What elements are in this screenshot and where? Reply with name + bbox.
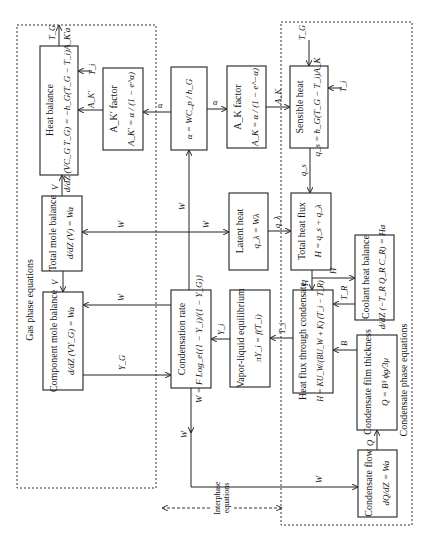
component-mole-balance-title: Component mole balance [48, 289, 59, 392]
h-coolant-label: H [328, 267, 338, 275]
w-vertical-label: W [177, 202, 187, 210]
ak-prime-factor-title: A_K′ factor [108, 85, 119, 133]
ti-in-sensible-label: T_i [338, 80, 348, 92]
ti-in-heat-balance-label: T_i [87, 63, 97, 75]
vapor-liquid-equilibrium-box: Vapor-liquid equilibrium πY_i = f(T_i) [230, 288, 270, 388]
sensible-heat-title: Sensible heat [294, 80, 305, 133]
coolant-heat-balance-title: Coolant heat balance [360, 235, 371, 319]
total-heat-flux-title: Total heat flux [296, 202, 307, 260]
w-condensate-flow-label: W [314, 475, 324, 483]
akp-label: A_K′ [86, 91, 96, 109]
tg-out-label: T_G [47, 25, 57, 40]
component-mole-balance-box: Component mole balance d/dZ (VY_G) = Wa [43, 289, 83, 392]
w-total-mole-label: W [116, 220, 126, 228]
yi-label: Y_i [216, 323, 226, 335]
condensation-rate-title: Condensation rate [176, 302, 187, 375]
heat-balance-equation: d/dZ (VC_G T_G) = −h_G(T_G − T_i)A_K′a [62, 27, 72, 192]
sensible-heat-equation: q_s = h_G(T_G − T_i)A_K [312, 56, 322, 156]
w-component-label: W [116, 293, 126, 301]
tr-label: T_R [339, 285, 349, 300]
ak-prime-factor-box: A_K′ factor A_K′ = α / (1 − e^α) [103, 68, 143, 150]
tg-in-sensible-label: T_G [297, 25, 307, 40]
total-mole-balance-title: Total mole balance [47, 194, 58, 270]
v-up-label: V [50, 183, 60, 190]
total-mole-balance-box: Total mole balance d/dZ (V) = Wa [42, 194, 82, 271]
ak-factor-box: A_K factor A_K = α / (1 − e^−α) [227, 66, 266, 148]
v-down-label: V [50, 278, 60, 285]
qs-label: q_s [298, 164, 308, 177]
heat-balance-title: Heat balance [44, 83, 55, 135]
heat-flux-condensate-equation: H = KU_W/(BU_W + K) (T_i − T_R) [316, 280, 325, 403]
vle-title: Vapor-liquid equilibrium [235, 288, 246, 388]
alpha-right-label: α [213, 97, 218, 107]
condensate-film-thickness-box: Condensate film thickness Q = B³ ϕg/3μ [357, 329, 397, 435]
interphase-label-1: Interphase [213, 481, 222, 515]
condensate-phase-label: Condensate phase equations [398, 324, 409, 437]
latent-heat-equation: q_λ = Wλ [251, 213, 261, 248]
coolant-heat-balance-equation: d/dZ (−T_R Q_R C_R) = Ha [377, 224, 387, 329]
heat-flux-condensate-box: Heat flux through condensate H = KU_W/(B… [293, 280, 333, 403]
ak-factor-title: A_K factor [232, 84, 243, 130]
gas-phase-label: Gas phase equations [24, 259, 35, 341]
condensation-rate-box: Condensation rate W = F Log_e{(1 − Y_i)/… [171, 275, 211, 404]
ak-prime-factor-equation: A_K′ = α / (1 − e^α) [126, 72, 136, 147]
alpha-equation: α = WC_p / h_G [184, 78, 194, 139]
h-down-label: H [300, 279, 310, 287]
ak-factor-equation: A_K = α / (1 − e^−α) [250, 68, 260, 147]
ti-to-vle-label: T_i [277, 322, 287, 334]
latent-heat-box: Latent heat q_λ = Wλ [229, 193, 268, 270]
heat-balance-box: Heat balance d/dZ (VC_G T_G) = −h_G(T_G … [40, 27, 78, 192]
q-label: Q [365, 440, 375, 446]
coolant-heat-balance-box: Coolant heat balance d/dZ (−T_R Q_R C_R)… [355, 224, 394, 329]
total-heat-flux-equation: H = q_s + q_λ [313, 204, 323, 258]
latent-heat-title: Latent heat [234, 208, 245, 253]
vle-equation: πY_i = f(T_i) [253, 314, 263, 362]
ak-label: A_K [273, 88, 283, 105]
total-mole-balance-equation: d/dZ (V) = Wa [65, 207, 75, 259]
alpha-box: α = WC_p / h_G [171, 67, 207, 150]
heat-flux-condensate-title: Heat flux through condensate [297, 281, 308, 400]
condensate-flow-box: Condensate flow dQ/dZ = Wa [358, 448, 397, 517]
alpha-left-label: α [158, 100, 163, 110]
b-label: B [339, 341, 349, 346]
yg-label: Y_G [117, 355, 127, 370]
condensation-rate-equation: W = F Log_e{(1 − Y_i)/(1 − Y_G)} [194, 275, 204, 404]
film-thickness-title: Condensate film thickness [362, 329, 373, 435]
ql-label: q_λ [272, 216, 282, 229]
component-mole-balance-equation: d/dZ (VY_G) = Wa [66, 307, 76, 375]
condensate-flow-title: Condensate flow [363, 448, 374, 516]
film-thickness-equation: Q = B³ ϕg/3μ [380, 357, 390, 406]
w-down-label: W [179, 430, 189, 438]
total-heat-flux-box: Total heat flux H = q_s + q_λ [291, 193, 331, 270]
process-flow-diagram: Gas phase equations Condensate phase equ… [0, 0, 430, 542]
w-latent-label: W [201, 220, 211, 228]
sensible-heat-box: Sensible heat q_s = h_G(T_G − T_i)A_K [290, 56, 328, 156]
condensate-flow-equation: dQ/dZ = Wa [381, 460, 391, 505]
